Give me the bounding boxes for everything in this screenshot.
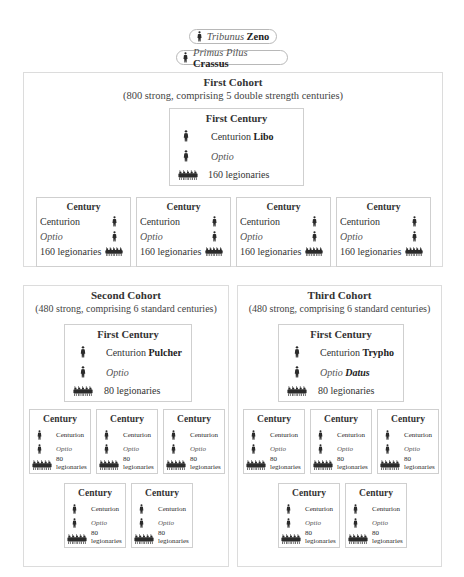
soldier-icon [251,444,256,454]
soldier-icon [183,52,188,63]
centurion-name: Trypho [363,347,395,358]
centurion-label: Centurion [91,505,119,513]
optio-name: Datus [345,367,369,378]
cohort-title: Third Cohort [238,289,441,301]
legionaries-group-icon [246,460,266,470]
centurion-label: Centurion [372,505,400,513]
century-title: Century [137,202,230,212]
optio-label: Optio [340,231,363,242]
centurion-name: Pulcher [149,347,182,358]
century-title: Century [378,414,438,424]
soldier-icon [139,504,144,514]
century-title: Century [311,414,371,424]
legionaries-group-icon [287,386,307,396]
legionaries-row: 160 legionaries [340,246,423,257]
soldier-icon [294,366,300,378]
legionaries-count: 80 legionaries [318,385,374,396]
centurion-label: Centurion [140,216,180,227]
legionaries-count: 160 legionaries [208,169,269,180]
legionaries-count: 80legionaries [91,529,122,545]
legionaries-count: 80legionaries [190,455,221,471]
first-century: First Century Centurion Libo Optio 160 l… [169,108,304,186]
legionaries-count: 80legionaries [372,529,403,545]
legionaries-count: 80 legionaries [104,385,160,396]
century-3: Century Centurion Optio 80legionaries [310,409,372,474]
optio-label: Optio [305,519,321,527]
centurion-label: Centurion [240,216,280,227]
century-4: Century Centurion Optio 80legionaries [163,409,225,474]
soldier-icon [171,430,176,440]
soldier-icon [104,430,109,440]
centurion-name: Libo [254,131,274,142]
cohort-title: First Cohort [24,76,442,88]
centurion-label: Centurion [40,216,80,227]
legionaries-group-icon [67,534,87,544]
century-title: First Century [65,329,191,340]
legionaries-group-icon [166,460,186,470]
soldier-icon [212,216,217,227]
legionaries-row: 160 legionaries [178,169,269,180]
soldier-icon [112,231,117,242]
legionaries-group-icon [134,534,154,544]
cohort-subtitle: (800 strong, comprising 5 double strengt… [24,90,442,101]
century-4: Century Centurion Optio 160 legionaries [336,197,431,267]
legionaries-group-icon [305,247,323,256]
soldier-icon [80,366,86,378]
century-title: Century [164,414,224,424]
primus-pilus-name: Crassus [193,58,229,69]
centurion-label: Centurion [340,216,380,227]
legionaries-group-icon [205,247,223,256]
century-3: Century Centurion Optio 160 legionaries [236,197,331,267]
legionaries-group-icon [73,386,93,396]
centurion-label: Centurion [270,431,298,439]
century-6: Century Centurion Optio 80legionaries [131,483,193,548]
century-title: Century [346,488,406,498]
soldier-icon [139,518,144,528]
century-6: Century Centurion Optio 80legionaries [345,483,407,548]
centurion-row: Centurion [140,216,180,227]
century-title: Century [37,202,130,212]
centurion-label: Centurion [305,505,333,513]
optio-label: Optio [320,367,343,378]
century-title: Century [279,488,339,498]
optio-label: Optio [240,231,263,242]
centurion-label: Centurion [106,347,146,358]
cohort-subtitle: (480 strong, comprising 6 standard centu… [238,303,441,314]
soldier-icon [353,504,358,514]
legionaries-count: 80legionaries [270,455,301,471]
optio-row: Optio [183,150,234,162]
legionaries-count: 80legionaries [123,455,154,471]
century-title: Century [30,414,90,424]
legionaries-count: 160 legionaries [340,246,401,257]
optio-label: Optio [337,445,353,453]
legionaries-row: 80 legionaries [287,385,374,396]
soldier-icon [318,430,323,440]
legionaries-row: 80 legionaries [73,385,160,396]
centurion-row: Centurion Pulcher [80,346,182,358]
soldier-icon [286,518,291,528]
optio-label: Optio [190,445,206,453]
legionaries-group-icon [405,247,423,256]
centurion-row: Centurion Trypho [294,346,394,358]
soldier-icon [183,150,189,162]
century-1: Century Centurion Optio 160 legionaries [36,197,131,267]
tribunus-rank: Tribunus [207,31,244,42]
legionaries-count: 80legionaries [56,455,87,471]
legionaries-count: 80legionaries [404,455,435,471]
century-5: Century Centurion Optio 80legionaries [278,483,340,548]
optio-label: Optio [140,231,163,242]
first-century: First Century Centurion Pulcher Optio 80… [64,324,192,402]
optio-label: Optio [211,151,234,162]
soldier-icon [80,346,86,358]
legionaries-group-icon [99,460,119,470]
soldier-icon [353,518,358,528]
optio-row: Optio Datus [294,366,370,378]
century-3: Century Centurion Optio 80legionaries [96,409,158,474]
century-2: Century Centurion Optio 160 legionaries [136,197,231,267]
optio-label: Optio [372,519,388,527]
soldier-icon [412,216,417,227]
century-4: Century Centurion Optio 80legionaries [377,409,439,474]
optio-row: Optio [40,231,63,242]
tribunus-name: Zeno [247,31,270,42]
legionaries-group-icon [380,460,400,470]
